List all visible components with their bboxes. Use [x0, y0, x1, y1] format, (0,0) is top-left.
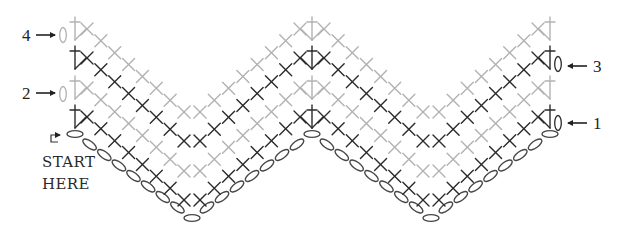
double-crochet-icon: [539, 17, 555, 40]
chain-stitch: [140, 179, 157, 194]
single-crochet-icon: [109, 135, 121, 147]
chain-stitch: [229, 179, 246, 194]
chain-stitch: [244, 169, 261, 184]
single-crochet-icon: [375, 158, 387, 170]
chain-stitch: [423, 215, 439, 222]
single-crochet-icon: [237, 70, 249, 82]
row-number-2: 2: [22, 84, 31, 103]
single-crochet-icon: [375, 70, 387, 82]
double-crochet-icon: [70, 105, 86, 128]
single-crochet-icon: [109, 47, 121, 59]
row-4: [60, 17, 555, 118]
double-crochet-icon: [70, 46, 86, 69]
single-crochet-icon: [123, 88, 135, 100]
chain-stitch: [96, 148, 113, 163]
single-crochet-icon: [475, 70, 487, 82]
row-label-4: 4: [22, 26, 55, 45]
single-crochet-icon: [475, 129, 487, 141]
single-crochet-icon: [332, 123, 344, 135]
double-crochet-icon: [539, 46, 555, 69]
single-crochet-icon: [403, 182, 415, 194]
single-crochet-icon: [150, 170, 162, 182]
single-crochet-icon: [178, 106, 190, 118]
single-crochet-icon: [417, 106, 429, 118]
single-crochet-icon: [164, 123, 176, 135]
single-crochet-icon: [433, 194, 445, 206]
chain-stitch: [348, 158, 365, 173]
single-crochet-icon: [475, 158, 487, 170]
chain-stitch: [333, 148, 350, 163]
single-crochet-icon: [346, 47, 358, 59]
single-crochet-icon: [375, 99, 387, 111]
single-crochet-icon: [389, 170, 401, 182]
row-label-3: 3: [568, 57, 602, 76]
single-crochet-icon: [280, 64, 292, 76]
chart-canvas: 4 2 3 1 START HERE: [0, 0, 620, 237]
single-crochet-icon: [164, 182, 176, 194]
single-crochet-icon: [136, 129, 148, 141]
single-crochet-icon: [178, 194, 190, 206]
double-crochet-icon: [539, 76, 555, 99]
chain-stitch: [512, 148, 529, 163]
chain-stitch: [304, 131, 320, 138]
single-crochet-icon: [332, 94, 344, 106]
single-crochet-icon: [237, 99, 249, 111]
single-crochet-icon: [81, 82, 93, 94]
single-crochet-icon: [318, 52, 330, 64]
chain-stitch: [482, 169, 499, 184]
single-crochet-icon: [389, 141, 401, 153]
single-crochet-icon: [403, 94, 415, 106]
single-crochet-icon: [150, 111, 162, 123]
single-crochet-icon: [346, 106, 358, 118]
single-crochet-icon: [265, 47, 277, 59]
single-crochet-icon: [318, 111, 330, 123]
single-crochet-icon: [433, 165, 445, 177]
single-crochet-icon: [294, 52, 306, 64]
start-arrow-icon: [51, 135, 60, 142]
single-crochet-icon: [346, 76, 358, 88]
single-crochet-icon: [504, 47, 516, 59]
single-crochet-icon: [280, 123, 292, 135]
single-crochet-icon: [332, 64, 344, 76]
chain-stitch: [199, 200, 216, 215]
single-crochet-icon: [109, 76, 121, 88]
chain-stitch: [67, 131, 83, 138]
single-crochet-icon: [461, 141, 473, 153]
chain-stitch: [393, 190, 410, 205]
single-crochet-icon: [360, 147, 372, 159]
single-crochet-icon: [265, 76, 277, 88]
single-crochet-icon: [178, 135, 190, 147]
turning-chain-icon: [555, 57, 562, 72]
single-crochet-icon: [81, 23, 93, 35]
row-number-3: 3: [593, 57, 602, 76]
single-crochet-icon: [461, 111, 473, 123]
single-crochet-icon: [490, 118, 502, 130]
single-crochet-icon: [178, 165, 190, 177]
single-crochet-icon: [223, 111, 235, 123]
single-crochet-icon: [490, 147, 502, 159]
start-marker: START HERE: [42, 135, 95, 193]
single-crochet-icon: [447, 182, 459, 194]
single-crochet-icon: [251, 59, 263, 71]
double-crochet-icon: [301, 17, 323, 40]
double-crochet-icon: [70, 76, 86, 99]
double-crochet-icon: [301, 76, 323, 99]
row-1: [70, 105, 561, 206]
single-crochet-icon: [223, 170, 235, 182]
single-crochet-icon: [318, 23, 330, 35]
start-label-line2: HERE: [42, 175, 90, 193]
single-crochet-icon: [532, 111, 544, 123]
chain-stitch: [363, 169, 380, 184]
chain-stitch: [437, 200, 454, 215]
chain-stitch: [497, 158, 514, 173]
chain-stitch: [259, 158, 276, 173]
crochet-chart: 4 2 3 1 START HERE: [0, 0, 620, 237]
single-crochet-icon: [95, 94, 107, 106]
double-crochet-icon: [70, 17, 86, 40]
single-crochet-icon: [433, 135, 445, 147]
single-crochet-icon: [504, 135, 516, 147]
single-crochet-icon: [81, 111, 93, 123]
single-crochet-icon: [447, 123, 459, 135]
start-label-line1: START: [42, 153, 95, 171]
single-crochet-icon: [389, 111, 401, 123]
